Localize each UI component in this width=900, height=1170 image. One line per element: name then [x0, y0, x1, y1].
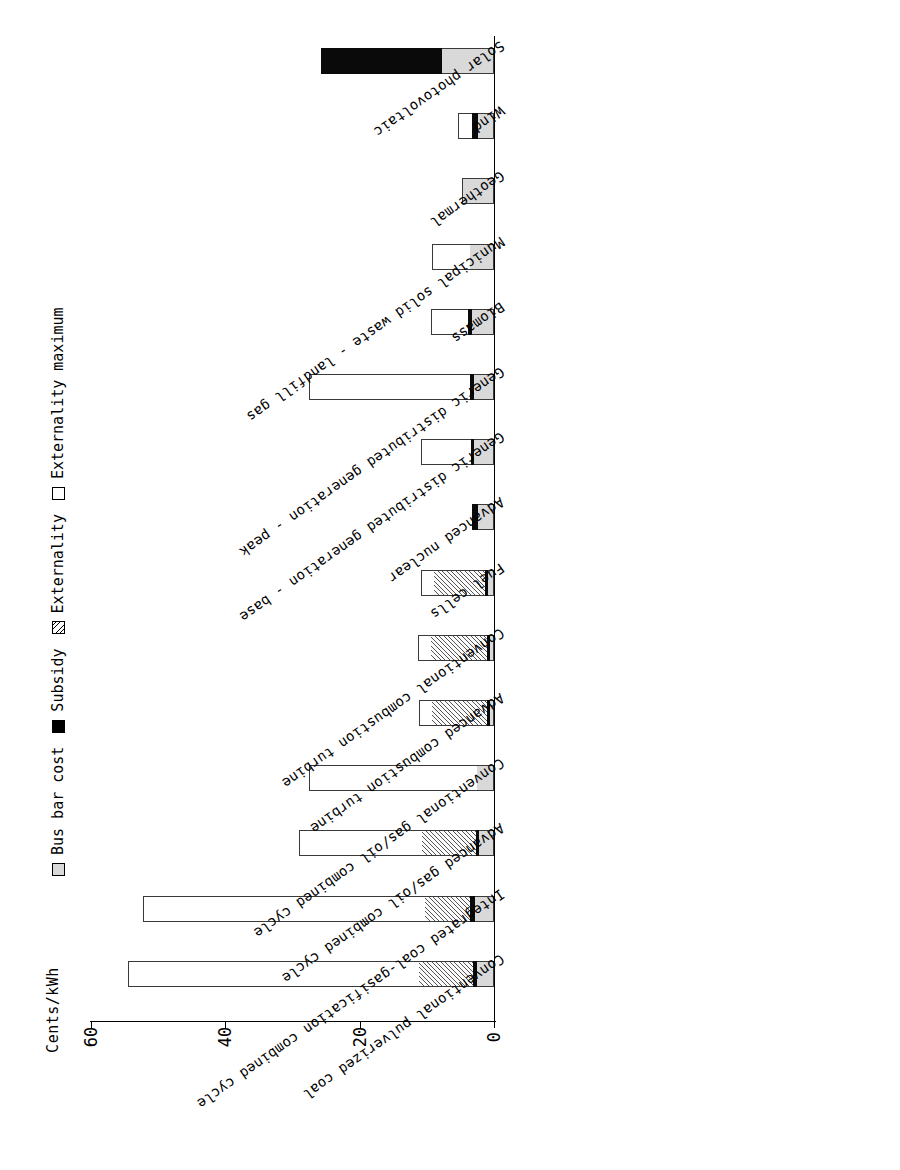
bar-row[interactable]	[0, 700, 494, 726]
bar-row[interactable]	[0, 439, 494, 465]
bar-row[interactable]	[0, 48, 494, 74]
bar-segment-externality-maximum[interactable]	[418, 635, 431, 661]
bar-row[interactable]	[0, 309, 494, 335]
bar-segment-externality-maximum[interactable]	[421, 570, 434, 596]
bar-row[interactable]	[0, 244, 494, 270]
bar-segment-externality-maximum[interactable]	[309, 374, 471, 400]
bar-row[interactable]	[0, 113, 494, 139]
bar-row[interactable]	[0, 374, 494, 400]
bar-chart-plot-area: 6040200 Conventional pulverized coalInte…	[0, 0, 900, 1170]
bar-row[interactable]	[0, 570, 494, 596]
bar-row[interactable]	[0, 765, 494, 791]
bar-row[interactable]	[0, 961, 494, 987]
bar-row[interactable]	[0, 178, 494, 204]
bar-row[interactable]	[0, 635, 494, 661]
bar-segment-subsidy[interactable]	[321, 48, 442, 74]
bar-row[interactable]	[0, 896, 494, 922]
bar-row[interactable]	[0, 504, 494, 530]
bar-segment-externality-maximum[interactable]	[419, 700, 432, 726]
value-tick-label-0: 0	[485, 1012, 503, 1062]
bar-segment-externality-maximum[interactable]	[458, 113, 471, 139]
value-tick-label-40: 40	[216, 1012, 234, 1062]
bar-row[interactable]	[0, 830, 494, 856]
value-tick-label-60: 60	[82, 1012, 100, 1062]
value-axis-line	[90, 1021, 496, 1022]
